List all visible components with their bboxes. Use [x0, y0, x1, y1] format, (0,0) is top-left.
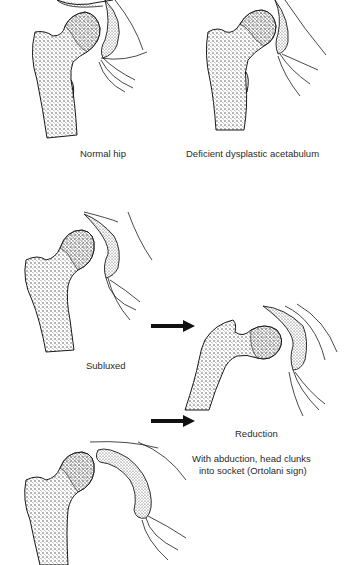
femur-acetabulum-subluxed-drawing: [18, 210, 153, 355]
reduction-hip-illustration: [185, 300, 349, 418]
deficient-acetabulum-illustration: [200, 0, 335, 135]
caption-reduction: Reduction: [235, 428, 278, 440]
normal-hip-illustration: [15, 0, 150, 140]
caption-deficient-acetabulum: Deficient dysplastic acetabulum: [186, 148, 319, 160]
femur-acetabulum-dislocated-drawing: [18, 440, 188, 565]
caption-normal-hip: Normal hip: [80, 148, 126, 160]
femur-acetabulum-deficient-drawing: [200, 0, 335, 135]
caption-ortolani-line2: into socket (Ortolani sign): [199, 465, 307, 477]
subluxed-hip-illustration: [18, 210, 153, 355]
caption-ortolani-line1: With abduction, head clunks: [192, 453, 311, 465]
femur-acetabulum-reduction-drawing: [185, 300, 349, 418]
caption-subluxed: Subluxed: [86, 360, 126, 372]
dislocated-hip-illustration: [18, 440, 188, 565]
femur-acetabulum-normal-drawing: [15, 0, 150, 140]
